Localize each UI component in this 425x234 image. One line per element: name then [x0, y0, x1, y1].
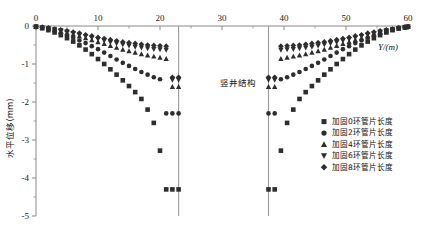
triangle-down-marker-icon: [321, 153, 327, 159]
shaft-structure-lines: [179, 26, 269, 216]
y-tick-label: -3: [22, 135, 30, 145]
legend-label: 加固4环管片长度: [332, 139, 393, 149]
x-tick-label: 50: [342, 13, 352, 23]
chart-legend: 加固0环管片长度加固2环管片长度加固4环管片长度加固6环管片长度加固8环管片长度: [321, 116, 393, 172]
series-1: [34, 24, 411, 115]
x-tick-label: 30: [218, 13, 228, 23]
legend-label: 加固2环管片长度: [332, 127, 393, 137]
chart-container: 01020304050600-1-2-3-4-5 Y/(m) 水平位移(mm) …: [0, 0, 425, 234]
y-tick-label: -5: [22, 211, 30, 221]
legend-label: 加固6环管片长度: [332, 150, 393, 160]
legend-item-1[interactable]: 加固2环管片长度: [321, 127, 392, 137]
x-tick-label: 40: [280, 13, 290, 23]
x-tick-label: 10: [94, 13, 104, 23]
circle-marker-icon: [321, 130, 326, 135]
x-tick-label: 60: [404, 13, 414, 23]
x-axis-title: Y/(m): [378, 42, 398, 52]
legend-label: 加固8环管片长度: [332, 162, 393, 172]
y-axis-title: 水平位移(mm): [5, 98, 15, 157]
y-tick-label: -2: [22, 97, 30, 107]
legend-item-2[interactable]: 加固4环管片长度: [321, 139, 393, 149]
square-marker-icon: [322, 119, 327, 124]
legend-label: 加固0环管片长度: [332, 116, 393, 126]
displacement-scatter-chart: 01020304050600-1-2-3-4-5 Y/(m) 水平位移(mm) …: [0, 0, 425, 234]
legend-item-3[interactable]: 加固6环管片长度: [321, 150, 393, 160]
diamond-marker-icon: [321, 164, 328, 171]
y-tick-label: -4: [22, 173, 30, 183]
x-tick-label: 20: [156, 13, 166, 23]
triangle-up-marker-icon: [321, 141, 327, 147]
y-tick-label: 0: [25, 21, 30, 31]
shaft-structure-annotation: 竖井结构: [220, 78, 256, 88]
legend-item-4[interactable]: 加固8环管片长度: [321, 162, 393, 172]
x-tick-label: 0: [34, 13, 39, 23]
legend-item-0[interactable]: 加固0环管片长度: [322, 116, 393, 126]
y-tick-label: -1: [22, 59, 30, 69]
